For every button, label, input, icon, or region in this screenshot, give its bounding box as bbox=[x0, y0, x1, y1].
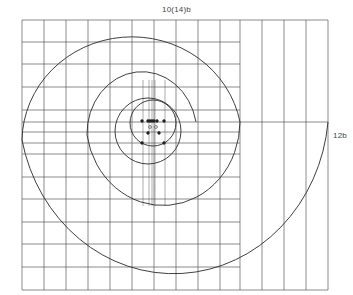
filled-point bbox=[156, 120, 159, 123]
inner-circle-small bbox=[130, 100, 176, 146]
filled-point bbox=[163, 120, 166, 123]
filled-point bbox=[147, 132, 150, 135]
label-right: 12b bbox=[333, 131, 347, 140]
grid bbox=[22, 20, 328, 290]
open-point bbox=[155, 126, 158, 129]
spiral-diagram bbox=[0, 0, 353, 295]
outer-upper-arc bbox=[22, 37, 240, 140]
label-top: 10(14)b bbox=[162, 5, 191, 14]
filled-point bbox=[158, 132, 161, 135]
filled-point bbox=[141, 120, 144, 123]
filled-point bbox=[141, 142, 144, 145]
filled-point bbox=[163, 142, 166, 145]
open-point bbox=[149, 126, 152, 129]
spiral-arcs bbox=[22, 37, 328, 274]
filled-point bbox=[153, 120, 156, 123]
outer-lower-arc bbox=[22, 122, 328, 274]
